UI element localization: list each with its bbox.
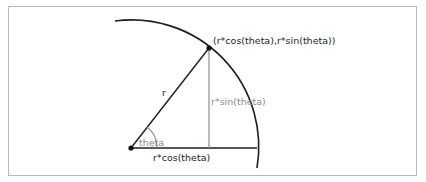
radius-label: r: [162, 87, 166, 98]
circle-point: [206, 45, 211, 50]
opposite-label: r*sin(theta): [211, 96, 266, 107]
adjacent-label: r*cos(theta): [153, 152, 210, 163]
polar-coordinate-diagram: (r*cos(theta),r*sin(theta)) r r*sin(thet…: [0, 0, 426, 182]
point-label: (r*cos(theta),r*sin(theta)): [213, 35, 335, 46]
origin-point: [128, 145, 133, 150]
radius-line: [131, 48, 209, 148]
angle-label: theta: [139, 137, 164, 148]
